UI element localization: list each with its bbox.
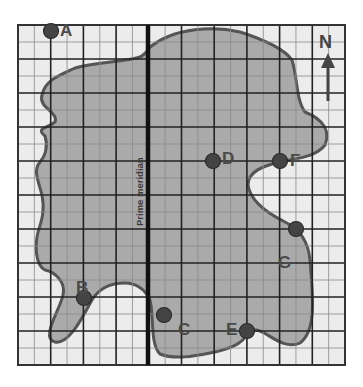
point-label: A [60, 21, 72, 40]
point-label: D [222, 149, 234, 168]
map: Prime meridian N ABCDEFG [0, 0, 363, 387]
north-label: N [319, 32, 332, 52]
point-label: C [178, 320, 190, 339]
prime-meridian-label: Prime meridian [134, 157, 145, 226]
point-marker-icon [273, 154, 288, 169]
point-marker-icon [240, 324, 255, 339]
point-label: E [226, 320, 237, 339]
point-marker-icon [206, 154, 221, 169]
point-marker-icon [44, 24, 59, 39]
point-label: F [290, 151, 300, 170]
point-marker-icon [157, 308, 172, 323]
point-label: B [76, 278, 88, 297]
point-marker-icon [289, 222, 304, 237]
point-label: G [278, 253, 291, 272]
